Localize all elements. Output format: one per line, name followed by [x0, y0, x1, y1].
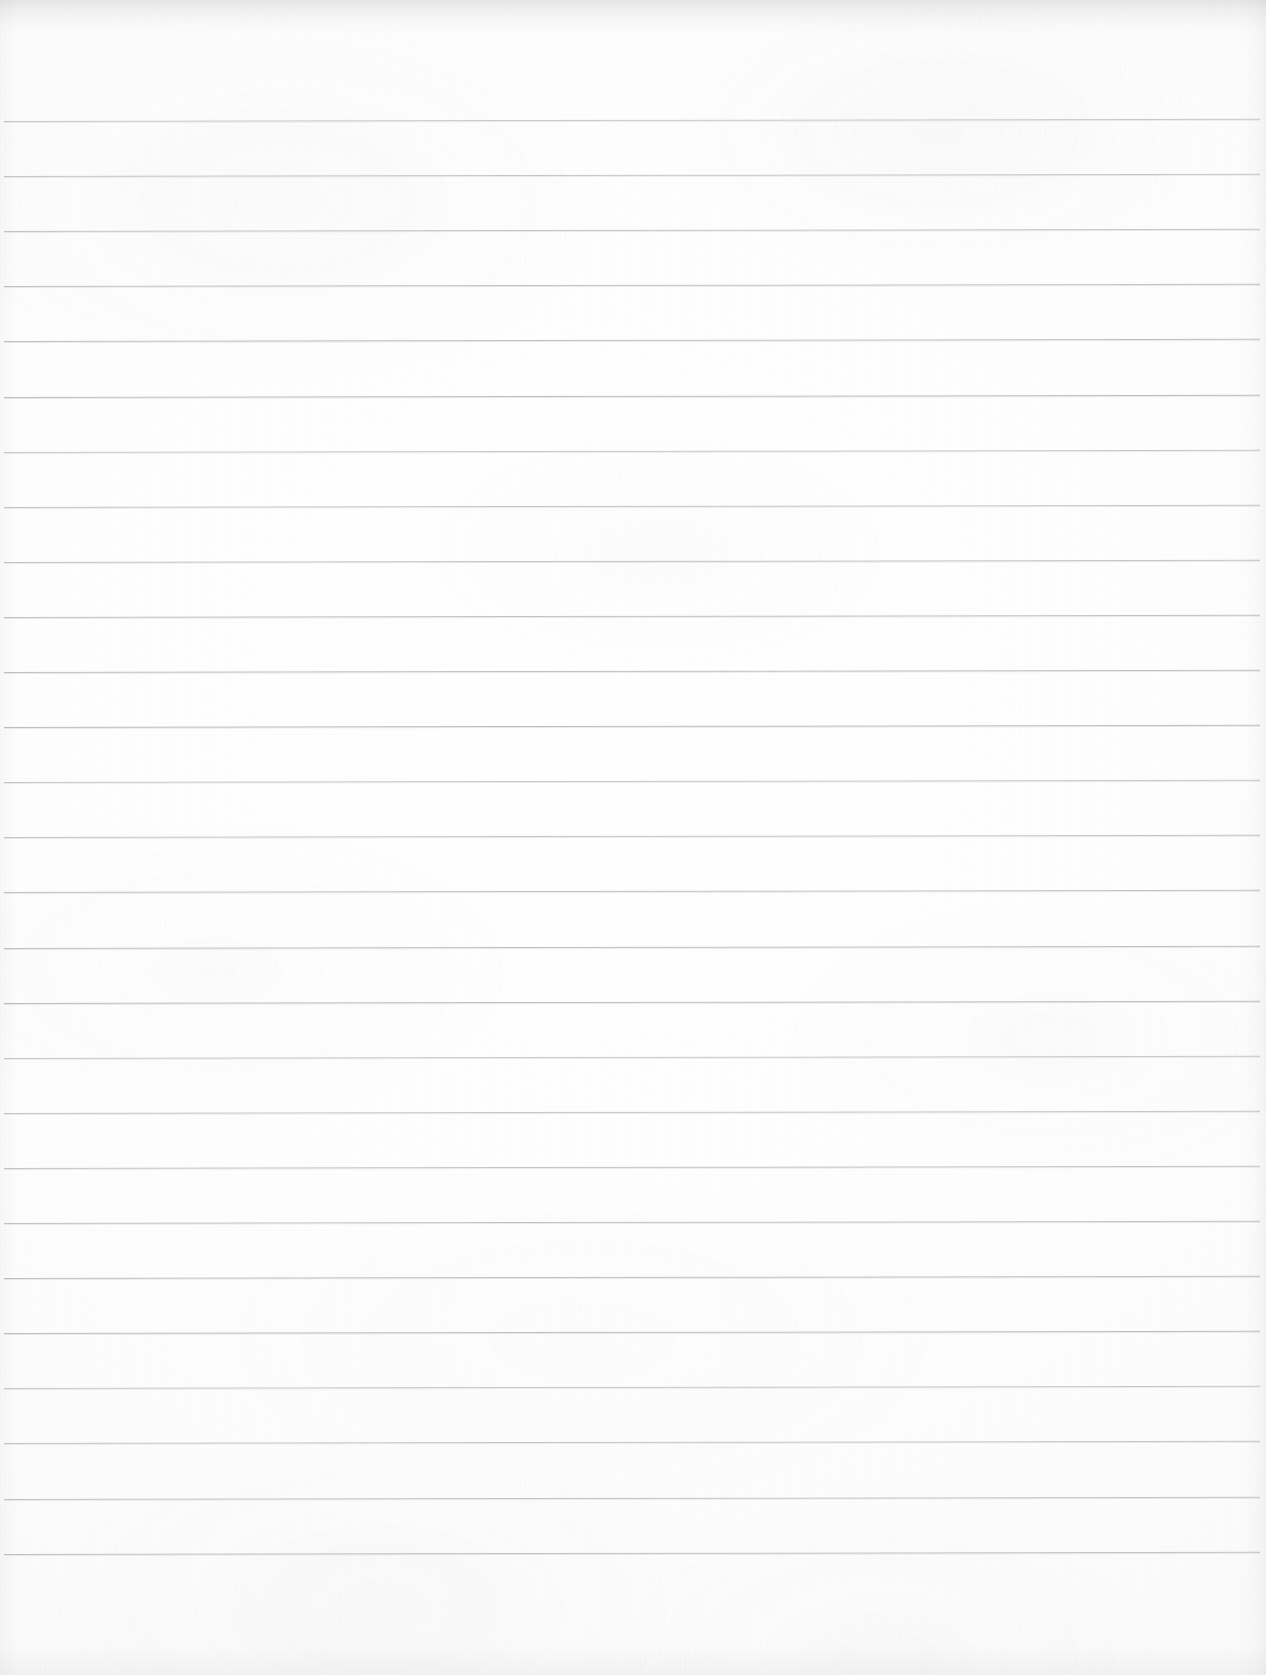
scanned-page — [0, 0, 1266, 1675]
page-content-area — [4, 121, 1260, 1573]
